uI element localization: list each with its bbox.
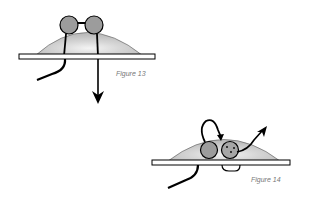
thread-tail — [37, 59, 65, 80]
knot-dot — [233, 147, 235, 149]
diagram-canvas — [0, 0, 311, 197]
plank — [152, 160, 290, 165]
knot-dot — [226, 146, 228, 148]
thread-tail — [168, 165, 198, 188]
figure-13 — [19, 16, 155, 104]
plank — [19, 54, 155, 59]
bead-right-knotted — [222, 142, 239, 159]
figure-14-caption: Figure 14 — [251, 176, 281, 183]
bead-right — [85, 16, 103, 34]
thread-right — [97, 34, 98, 56]
knot-dot — [230, 151, 232, 153]
thread-loop — [202, 120, 221, 142]
fabric-dome — [36, 33, 142, 56]
bead-left — [201, 142, 218, 159]
thread-under-loop — [222, 165, 240, 171]
bead-left — [60, 16, 78, 34]
figure-13-caption: Figure 13 — [116, 70, 146, 77]
